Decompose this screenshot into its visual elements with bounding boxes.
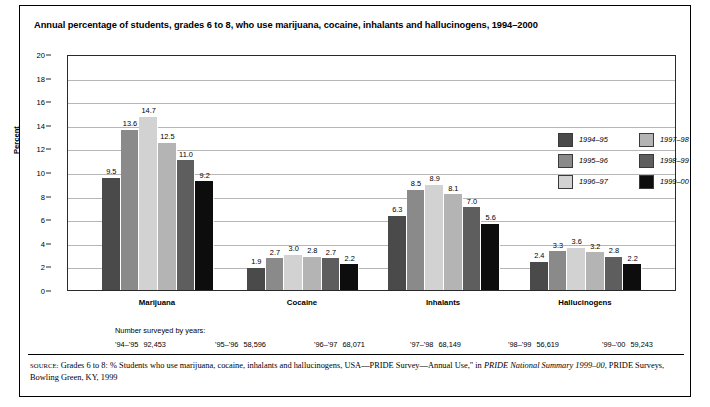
bar bbox=[444, 194, 463, 290]
bar-value-label: 3.2 bbox=[590, 242, 600, 251]
bar bbox=[549, 251, 568, 290]
x-axis-category-label: Cocaine bbox=[287, 298, 317, 307]
bar bbox=[623, 264, 642, 290]
bar-value-label: 2.2 bbox=[345, 254, 355, 263]
bar bbox=[425, 185, 444, 290]
bar-value-label: 2.7 bbox=[270, 248, 280, 257]
bar-value-label: 6.3 bbox=[392, 205, 402, 214]
bar bbox=[567, 248, 586, 290]
bar bbox=[322, 258, 341, 290]
figure-frame: Annual percentage of students, grades 6 … bbox=[19, 5, 691, 397]
bar-value-label: 5.6 bbox=[486, 213, 496, 222]
survey-count-value: 92,453 bbox=[143, 340, 166, 349]
x-axis-category-label: Marijuana bbox=[139, 298, 175, 307]
legend-color-swatch bbox=[558, 154, 573, 168]
bar bbox=[195, 181, 214, 290]
bar bbox=[102, 178, 121, 290]
legend-item-label: 1999–00 bbox=[660, 177, 689, 186]
bar-value-label: 2.4 bbox=[534, 251, 544, 260]
survey-count-item: '98–'9956,619 bbox=[508, 340, 559, 349]
survey-counts: Number surveyed by years: '94–'9592,453'… bbox=[115, 326, 675, 351]
survey-count-year: '98–'99 bbox=[508, 340, 531, 349]
bar-value-label: 3.6 bbox=[572, 237, 582, 246]
bar-value-label: 13.6 bbox=[123, 119, 137, 128]
legend-item-label: 1994–95 bbox=[579, 135, 608, 144]
bar-value-label: 14.7 bbox=[141, 106, 155, 115]
survey-counts-title: Number surveyed by years: bbox=[115, 326, 675, 335]
legend-color-swatch bbox=[639, 154, 654, 168]
survey-count-value: 68,149 bbox=[438, 340, 461, 349]
y-axis-tick-mark bbox=[46, 196, 51, 197]
legend-item: 1998–99 bbox=[639, 150, 710, 171]
y-axis-tick-label: 2 bbox=[21, 263, 45, 272]
legend-item: 1995–96 bbox=[558, 150, 632, 171]
bar bbox=[177, 160, 196, 290]
survey-count-year: '95–'96 bbox=[215, 340, 238, 349]
bar-value-label: 11.0 bbox=[179, 150, 193, 159]
survey-count-year: '96–'97 bbox=[314, 340, 337, 349]
y-axis-tick-mark bbox=[46, 102, 51, 103]
bar-value-label: 2.2 bbox=[628, 254, 638, 263]
source-divider bbox=[28, 354, 684, 355]
bar-value-label: 8.9 bbox=[430, 174, 440, 183]
bar-value-label: 9.2 bbox=[200, 171, 210, 180]
survey-count-item: '99–'0059,243 bbox=[602, 340, 653, 349]
legend-item: 1996–97 bbox=[558, 171, 632, 192]
bar-value-label: 2.7 bbox=[326, 248, 336, 257]
y-axis-tick-label: 0 bbox=[21, 287, 45, 296]
survey-count-year: '97–'98 bbox=[410, 340, 433, 349]
page-title: Annual percentage of students, grades 6 … bbox=[34, 20, 674, 30]
bar bbox=[139, 117, 158, 290]
x-axis-category-label: Inhalants bbox=[426, 298, 460, 307]
source-italic-title: PRIDE National Summary 1999–00 bbox=[484, 361, 605, 370]
survey-count-year: '94–'95 bbox=[115, 340, 138, 349]
bar-group: 1.92.73.02.82.72.2 bbox=[247, 56, 359, 290]
survey-count-item: '97–'9868,149 bbox=[410, 340, 461, 349]
y-axis-tick-mark bbox=[46, 267, 51, 268]
y-axis-tick-mark bbox=[46, 55, 51, 56]
y-axis-tick-mark bbox=[46, 78, 51, 79]
y-axis-tick-mark bbox=[46, 125, 51, 126]
y-axis-tick-label: 14 bbox=[21, 121, 45, 130]
x-axis-category-label: Hallucinogens bbox=[558, 298, 611, 307]
legend-column-left: 1994–951995–961996–97 bbox=[558, 129, 632, 192]
bar bbox=[303, 257, 322, 290]
survey-counts-row: '94–'9592,453'95–'9658,596'96–'9768,071'… bbox=[115, 340, 675, 351]
legend-column-right: 1997–981998–991999–00 bbox=[639, 129, 710, 192]
y-axis-label: Percent bbox=[12, 126, 21, 154]
legend-item-label: 1996–97 bbox=[579, 177, 608, 186]
bar bbox=[158, 143, 177, 291]
legend-item: 1994–95 bbox=[558, 129, 632, 150]
legend-item: 1999–00 bbox=[639, 171, 710, 192]
bar bbox=[407, 190, 426, 290]
bar-value-label: 3.0 bbox=[289, 244, 299, 253]
bar bbox=[247, 268, 266, 290]
y-axis-tick-label: 20 bbox=[21, 51, 45, 60]
bar bbox=[481, 224, 500, 290]
y-axis: 02468101214161820 bbox=[20, 50, 67, 296]
bar-value-label: 8.5 bbox=[411, 179, 421, 188]
legend-item-label: 1997–98 bbox=[660, 135, 689, 144]
bar bbox=[284, 255, 303, 290]
legend-color-swatch bbox=[558, 133, 573, 147]
bar-value-label: 7.0 bbox=[467, 197, 477, 206]
bar-group: 6.38.58.98.17.05.6 bbox=[388, 56, 500, 290]
legend-item: 1997–98 bbox=[639, 129, 710, 150]
bar-value-label: 12.5 bbox=[160, 132, 174, 141]
bar bbox=[463, 207, 482, 290]
y-axis-tick-label: 18 bbox=[21, 74, 45, 83]
y-axis-tick-mark bbox=[46, 220, 51, 221]
bar-value-label: 2.8 bbox=[609, 246, 619, 255]
bar bbox=[388, 216, 407, 290]
y-axis-tick-mark bbox=[46, 149, 51, 150]
bar-value-label: 3.3 bbox=[553, 241, 563, 250]
y-axis-tick-label: 4 bbox=[21, 239, 45, 248]
legend-item-label: 1998–99 bbox=[660, 156, 689, 165]
survey-count-value: 68,071 bbox=[342, 340, 365, 349]
bar bbox=[605, 257, 624, 290]
bar bbox=[121, 130, 140, 290]
bar-group: 9.513.614.712.511.09.2 bbox=[102, 56, 214, 290]
survey-count-value: 59,243 bbox=[630, 340, 653, 349]
source-note: SOURCE: Grades 6 to 8: % Students who us… bbox=[30, 360, 682, 383]
y-axis-tick-label: 8 bbox=[21, 192, 45, 201]
